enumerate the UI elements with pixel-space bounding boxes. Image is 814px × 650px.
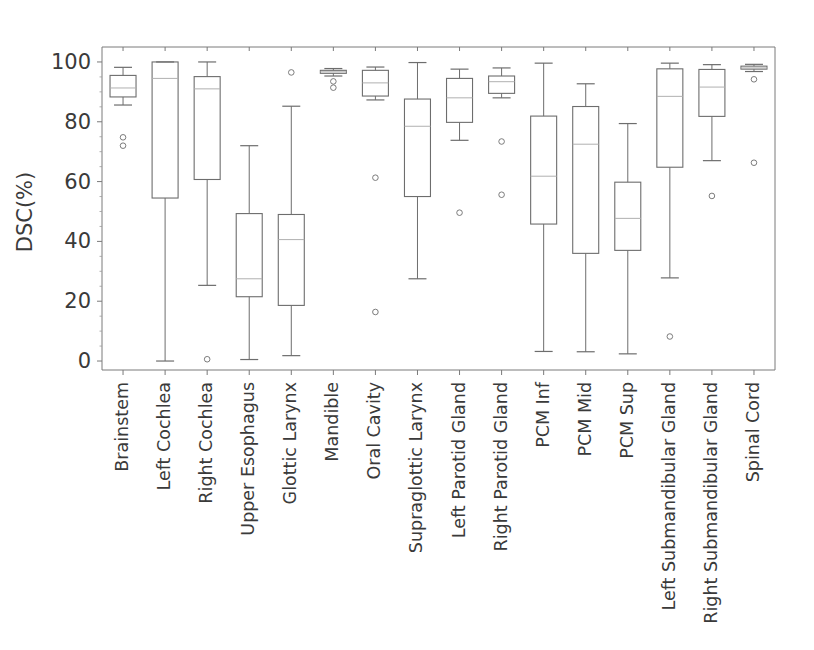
x-tick-label-4: Glottic Larynx [280, 382, 300, 504]
x-tick-label-7: Supraglottic Larynx [406, 382, 426, 553]
x-tick-label-2: Right Cochlea [196, 382, 216, 504]
x-tick-label-1: Left Cochlea [154, 382, 174, 490]
x-tick-label-5: Mandible [322, 382, 342, 462]
y-tick-label-100: 100 [51, 50, 91, 74]
x-tick-label-8: Left Parotid Gland [449, 382, 469, 538]
x-tick-label-11: PCM Mid [575, 382, 595, 457]
x-tick-label-0: Brainstem [112, 382, 132, 472]
x-tick-label-13: Left Submandibular Gland [659, 382, 679, 611]
x-tick-label-14: Right Submandibular Gland [701, 382, 721, 624]
x-tick-label-6: Oral Cavity [364, 382, 384, 480]
y-tick-label-0: 0 [78, 349, 91, 373]
chart-canvas: 020406080100 DSC(%) BrainstemLeft Cochle… [0, 0, 814, 650]
y-tick-label-40: 40 [64, 229, 91, 253]
y-tick-label-20: 20 [64, 289, 91, 313]
x-tick-label-15: Spinal Cord [743, 382, 763, 482]
y-tick-label-80: 80 [64, 110, 91, 134]
x-tick-label-3: Upper Esophagus [238, 382, 258, 536]
box-plot-figure: 020406080100 DSC(%) BrainstemLeft Cochle… [0, 0, 814, 650]
y-axis-title: DSC(%) [13, 172, 37, 253]
x-tick-label-12: PCM Sup [617, 382, 637, 459]
x-tick-label-10: PCM Inf [533, 381, 553, 448]
y-tick-label-60: 60 [64, 170, 91, 194]
x-tick-label-9: Right Parotid Gland [491, 382, 511, 551]
